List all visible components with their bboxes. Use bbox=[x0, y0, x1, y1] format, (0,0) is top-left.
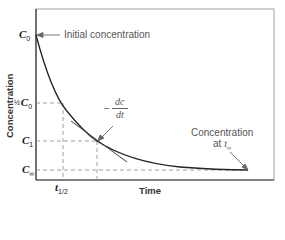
derivative-minus: − bbox=[104, 104, 110, 114]
derivative-numerator: dc bbox=[115, 97, 124, 107]
derivative-denominator: dt bbox=[116, 110, 124, 120]
final-annotation-line1: Concentration bbox=[191, 128, 253, 138]
final-annotation-line2: at t∞ bbox=[191, 139, 253, 151]
label-cinf: C∞ bbox=[22, 164, 34, 177]
label-c0: C0 bbox=[19, 29, 30, 42]
initial-arrow-head bbox=[37, 33, 43, 38]
y-axis-title: Concentration bbox=[5, 74, 15, 138]
initial-concentration-annotation: Initial concentration bbox=[64, 30, 150, 40]
derivative-annotation: − dc dt bbox=[104, 97, 128, 120]
final-concentration-annotation: Concentration at t∞ bbox=[191, 128, 253, 151]
label-half-c0: ½C0 bbox=[14, 97, 32, 110]
label-c1: C1 bbox=[22, 135, 33, 148]
x-axis-title: Time bbox=[139, 186, 161, 196]
label-t-half: t1/2 bbox=[55, 182, 68, 195]
derivative-fraction: dc dt bbox=[112, 97, 128, 120]
tangent-line bbox=[71, 121, 127, 162]
